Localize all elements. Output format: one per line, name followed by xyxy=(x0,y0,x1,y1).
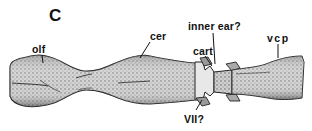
braincase-drawing xyxy=(0,0,312,131)
braincase-figure: C olf cer inner ear? cart vcp VII? xyxy=(0,0,312,131)
label-cer: cer xyxy=(150,30,166,42)
panel-letter: C xyxy=(49,6,61,26)
label-cart: cart xyxy=(193,45,213,57)
label-vcp: vcp xyxy=(267,32,290,44)
braincase-body xyxy=(10,55,202,107)
label-vii: VII? xyxy=(184,113,204,125)
label-inner-ear: inner ear? xyxy=(188,20,241,32)
label-olf: olf xyxy=(32,43,45,55)
posterior-region xyxy=(232,56,304,100)
